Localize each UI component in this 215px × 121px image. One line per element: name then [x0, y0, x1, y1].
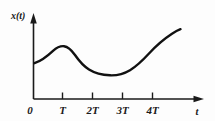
x-tick-label-1: T	[59, 104, 67, 116]
x-tick-label-4: 4T	[145, 104, 160, 116]
figure-container: x(t) 0 T 2T 3T 4T t	[0, 0, 215, 121]
x-axis-title: t	[196, 106, 200, 117]
x-tick-label-0: 0	[27, 104, 33, 116]
x-tick-label-3: 3T	[115, 104, 130, 116]
y-axis-title: x(t)	[10, 10, 25, 22]
label-layer: x(t) 0 T 2T 3T 4T t	[0, 0, 215, 121]
x-tick-label-2: 2T	[85, 104, 100, 116]
